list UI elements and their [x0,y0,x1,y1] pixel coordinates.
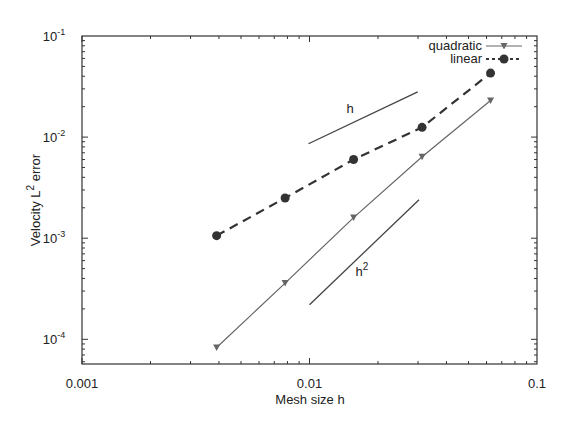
y-tick-label: 10-1 [43,27,65,44]
x-tick-label: 0.01 [297,376,322,391]
slope-label-h: h [346,101,353,116]
axis-ticks: 0.0010.010.110-110-210-310-4 [43,27,546,391]
marker-circle [212,231,221,240]
y-tick-label: 10-2 [43,128,65,145]
slope-line-h2 [310,200,420,305]
y-tick-label: 10-4 [43,330,65,347]
marker-circle [486,69,495,78]
y-tick-label: 10-3 [43,229,65,246]
series-line-linear [217,73,491,236]
series-linear [212,69,495,241]
slope-reference-lines [309,92,420,305]
x-tick-label: 0.001 [66,376,99,391]
legend-label-linear: linear [450,51,482,66]
marker-circle [500,55,509,64]
x-tick-label: 0.1 [528,376,546,391]
marker-circle [349,155,358,164]
series-line-quadratic [217,101,491,348]
slope-label-h2: h2 [356,261,369,279]
series-quadratic [213,98,494,351]
x-axis-title: Mesh size h [275,392,344,407]
convergence-chart: 0.0010.010.110-110-210-310-4 Mesh size h… [0,0,571,423]
marker-circle [281,193,290,202]
marker-triangle-down [213,344,220,351]
legend-samples [486,43,522,64]
slope-line-h [309,92,418,144]
marker-circle [418,123,427,132]
y-axis-title: Velocity L2 error [25,153,43,246]
plot-border [82,36,537,364]
plot-frame [82,36,537,364]
legend: quadratic linear [429,38,522,66]
